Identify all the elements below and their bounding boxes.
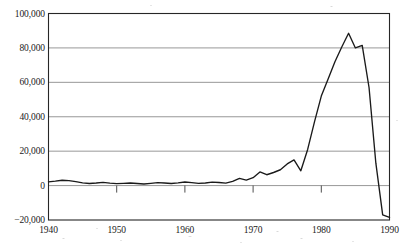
- y-tick-label: 80,000: [1, 43, 45, 53]
- scan-speck: [240, 242, 242, 243]
- x-tick-label: 1990: [368, 225, 403, 235]
- y-tick-label: 100,000: [1, 9, 45, 19]
- x-tick-label: 1970: [231, 225, 275, 235]
- scan-speck: [62, 238, 65, 239]
- scan-speck: [120, 240, 122, 241]
- y-tick-label: −20,000: [1, 215, 45, 225]
- data-line: [49, 33, 390, 217]
- x-tick-label: 1960: [163, 225, 207, 235]
- grid-lines: [49, 48, 390, 186]
- x-tick-label: 1940: [27, 225, 71, 235]
- x-tick-label: 1980: [299, 225, 343, 235]
- chart-figure: 100,00080,00060,00040,00020,0000−20,000 …: [0, 0, 403, 247]
- scan-speck: [188, 236, 192, 237]
- line-chart-plot: [0, 0, 403, 247]
- data-series: [49, 33, 390, 217]
- scan-speck: [352, 241, 354, 242]
- y-tick-label: 60,000: [1, 77, 45, 87]
- y-tick-label: 40,000: [1, 112, 45, 122]
- y-tick-label: 20,000: [1, 146, 45, 156]
- y-tick-label: 0: [1, 181, 45, 191]
- scan-speck: [96, 228, 98, 229]
- x-axis-ticks: [117, 186, 322, 193]
- x-tick-label: 1950: [95, 225, 139, 235]
